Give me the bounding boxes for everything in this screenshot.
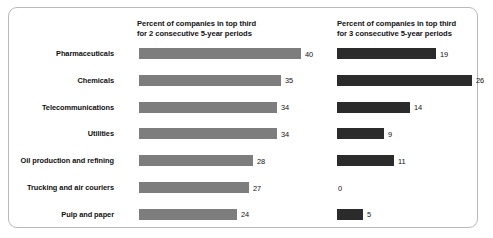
bar-two-periods — [139, 155, 253, 166]
table-row: Utilities349 — [9, 128, 477, 155]
row-label: Chemicals — [77, 76, 114, 85]
column-header-three-periods: Percent of companies in top third for 3 … — [337, 19, 492, 38]
bar-three-periods — [337, 155, 394, 166]
bar-value-three-periods: 19 — [440, 50, 448, 59]
bar-value-three-periods: 9 — [388, 130, 392, 139]
bar-value-two-periods: 34 — [281, 130, 289, 139]
row-label: Trucking and air couriers — [27, 183, 114, 192]
column-header-two-periods: Percent of companies in top third for 2 … — [137, 19, 312, 38]
bar-three-periods — [337, 209, 363, 220]
bar-two-periods — [139, 48, 301, 59]
table-row: Chemicals3526 — [9, 75, 477, 102]
bar-value-two-periods: 40 — [305, 50, 313, 59]
bar-value-three-periods: 26 — [476, 76, 484, 85]
table-row: Telecommunications3414 — [9, 102, 477, 129]
bar-value-three-periods: 0 — [338, 184, 342, 193]
bar-three-periods — [337, 75, 472, 86]
bar-value-two-periods: 28 — [257, 157, 265, 166]
row-label: Pharmaceuticals — [56, 49, 114, 58]
row-label: Utilities — [88, 129, 114, 138]
row-label: Oil production and refining — [21, 156, 115, 165]
bar-value-two-periods: 24 — [241, 210, 249, 219]
bar-value-three-periods: 11 — [398, 157, 406, 166]
bar-two-periods — [139, 182, 249, 193]
bar-two-periods — [139, 128, 277, 139]
table-row: Pulp and paper245 — [9, 209, 477, 236]
bar-value-two-periods: 34 — [281, 103, 289, 112]
bar-value-three-periods: 14 — [414, 103, 422, 112]
chart-frame: Percent of companies in top third for 2 … — [8, 7, 478, 228]
bar-value-two-periods: 27 — [253, 184, 261, 193]
bar-two-periods — [139, 75, 281, 86]
row-label: Pulp and paper — [61, 210, 114, 219]
bar-value-two-periods: 35 — [285, 76, 293, 85]
bar-two-periods — [139, 102, 277, 113]
bar-two-periods — [139, 209, 237, 220]
table-row: Oil production and refining2811 — [9, 155, 477, 182]
table-row: Trucking and air couriers270 — [9, 182, 477, 209]
bar-three-periods — [337, 128, 384, 139]
bar-three-periods — [337, 102, 410, 113]
bar-value-three-periods: 5 — [367, 210, 371, 219]
table-row: Pharmaceuticals4019 — [9, 48, 477, 75]
row-label: Telecommunications — [42, 103, 114, 112]
bar-three-periods — [337, 48, 436, 59]
